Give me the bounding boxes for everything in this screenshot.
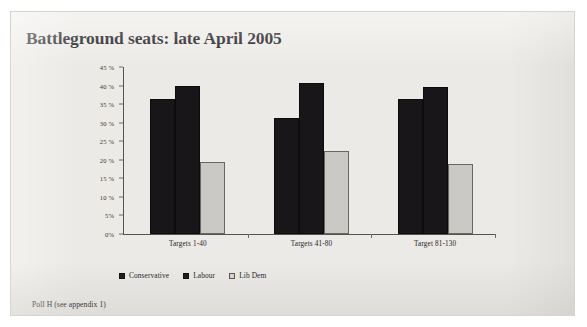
legend-item-labour: Labour (183, 271, 215, 280)
legend-item-label: Labour (193, 271, 215, 280)
y-axis: 45 %40 %35 %30 %25 %20 %15 %10 %5%0% (86, 67, 118, 235)
y-axis-tick-label: 10 % (100, 193, 114, 200)
y-axis-tick-label: 40 % (100, 82, 114, 89)
bar-labour (423, 87, 448, 234)
legend-swatch-icon (183, 273, 189, 279)
legend-item-conservative: Conservative (119, 271, 169, 280)
page-title: Battleground seats: late April 2005 (26, 28, 282, 49)
chart-legend: ConservativeLabourLib Dem (119, 271, 266, 280)
bar-libdem (200, 162, 225, 234)
y-axis-tick-label: 35 % (100, 101, 114, 108)
bar-libdem (324, 151, 349, 234)
x-axis-tick-mark (371, 234, 372, 238)
x-axis-category-label: Target 81-130 (414, 240, 456, 248)
y-axis-tick-label: 25 % (100, 138, 114, 145)
chart-plot-area: 45 %40 %35 %30 %25 %20 %15 %10 %5%0% Tar… (86, 67, 506, 242)
x-axis-tick-mark (495, 234, 496, 238)
y-axis-tick-label: 20 % (100, 156, 114, 163)
x-axis-category-label: Targets 1-40 (169, 240, 207, 248)
bar-group (398, 67, 473, 234)
figure-card: Battleground seats: late April 2005 45 %… (10, 11, 575, 316)
x-axis-line (123, 234, 495, 235)
x-axis: Targets 1-40Targets 41-80Target 81-130 (124, 240, 495, 254)
legend-item-label: Conservative (129, 271, 169, 280)
x-axis-category-label: Targets 41-80 (291, 240, 332, 248)
legend-swatch-icon (119, 273, 125, 279)
bar-conservative (150, 99, 175, 234)
bar-conservative (398, 99, 423, 234)
bar-labour (175, 86, 200, 234)
bar-libdem (448, 164, 473, 234)
bars-region (124, 67, 495, 234)
y-axis-tick-label: 45 % (100, 64, 114, 71)
x-axis-tick-mark (248, 234, 249, 238)
y-axis-tick-label: 5% (105, 212, 114, 219)
legend-swatch-icon (229, 273, 235, 279)
y-axis-tick-label: 15 % (100, 175, 114, 182)
bar-conservative (274, 118, 299, 234)
bar-group (150, 67, 225, 234)
bar-group (274, 67, 349, 234)
figure-caption: Poll H (see appendix 1) (32, 300, 106, 309)
y-axis-tick-label: 0% (105, 231, 114, 238)
legend-item-label: Lib Dem (239, 271, 266, 280)
bar-labour (299, 83, 324, 234)
legend-item-libdem: Lib Dem (229, 271, 266, 280)
y-axis-tick-label: 30 % (100, 119, 114, 126)
